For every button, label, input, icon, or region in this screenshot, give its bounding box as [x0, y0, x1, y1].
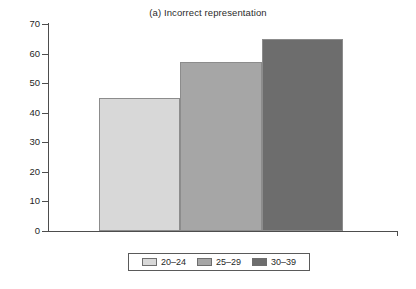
y-axis-tick-label: 40: [2, 108, 40, 118]
y-axis-tick-label: 20: [2, 167, 40, 177]
y-axis-tick: [42, 231, 48, 232]
y-axis-tick-label-wrap: 40: [0, 108, 40, 118]
legend-entry[interactable]: 25–29: [197, 258, 241, 267]
chart-legend: 20–2425–2930–39: [128, 253, 310, 271]
y-axis-tick-label: 30: [2, 137, 40, 147]
x-axis-line: [48, 231, 398, 232]
y-axis-tick-label: 0: [2, 226, 40, 236]
y-axis-tick-label: 50: [2, 78, 40, 88]
y-axis-tick-label-wrap: 0: [0, 226, 40, 236]
legend-label: 30–39: [271, 258, 296, 267]
legend-entry[interactable]: 20–24: [142, 258, 186, 267]
y-axis-tick-label-wrap: 30: [0, 137, 40, 147]
legend-label: 25–29: [216, 258, 241, 267]
legend-swatch-icon: [142, 258, 157, 266]
chart-title: (a) Incorrect representation: [0, 7, 416, 18]
y-axis-tick-label-wrap: 60: [0, 49, 40, 59]
chart-figure: (a) Incorrect representation 01020304050…: [0, 0, 416, 289]
bar: [180, 62, 261, 231]
legend-label: 20–24: [161, 258, 186, 267]
y-axis-tick-label-wrap: 20: [0, 167, 40, 177]
legend-entry[interactable]: 30–39: [252, 258, 296, 267]
y-axis-tick-label: 70: [2, 19, 40, 29]
bar: [262, 39, 343, 231]
y-axis-tick-label-wrap: 10: [0, 196, 40, 206]
y-axis-tick-label: 60: [2, 49, 40, 59]
y-axis-tick-label-wrap: 70: [0, 19, 40, 29]
legend-swatch-icon: [252, 258, 267, 266]
bar: [99, 98, 180, 231]
y-axis-tick-label-wrap: 50: [0, 78, 40, 88]
y-axis-tick-label: 10: [2, 196, 40, 206]
plot-area: [48, 24, 398, 231]
x-axis-end-tick: [397, 231, 398, 236]
legend-swatch-icon: [197, 258, 212, 266]
